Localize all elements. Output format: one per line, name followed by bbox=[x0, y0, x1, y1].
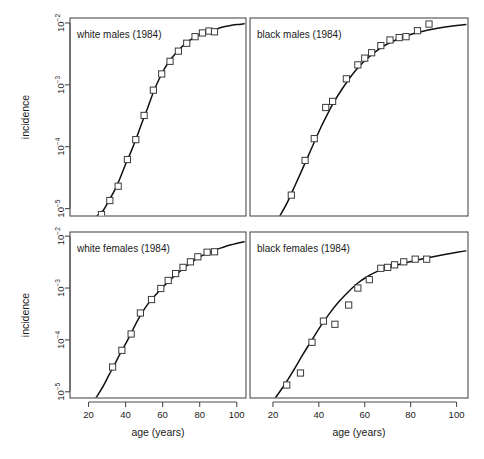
y-axis-title: incidence bbox=[19, 95, 31, 140]
data-point-marker bbox=[204, 249, 210, 255]
data-point-marker bbox=[414, 28, 420, 34]
data-point-marker bbox=[297, 370, 303, 376]
data-point-marker bbox=[133, 137, 139, 143]
y-tick-exponent: −4 bbox=[53, 331, 60, 339]
y-tick-exponent: −2 bbox=[53, 14, 60, 22]
panel-title-white-males: white males (1984) bbox=[76, 29, 161, 40]
data-point-marker bbox=[355, 62, 361, 68]
x-tick-label: 40 bbox=[314, 409, 325, 420]
data-point-marker bbox=[387, 37, 393, 43]
x-tick-label: 60 bbox=[157, 409, 168, 420]
data-point-marker bbox=[320, 318, 326, 324]
data-point-marker bbox=[332, 321, 338, 327]
data-point-marker bbox=[192, 34, 198, 40]
data-point-marker bbox=[173, 270, 179, 276]
data-point-marker bbox=[195, 254, 201, 260]
y-tick-exponent: −3 bbox=[53, 75, 60, 83]
y-axis-title: incidence bbox=[19, 293, 31, 338]
y-tick-exponent: −5 bbox=[53, 382, 60, 390]
data-point-marker bbox=[346, 302, 352, 308]
y-tick-base: 10 bbox=[55, 83, 66, 94]
data-point-marker bbox=[391, 262, 397, 268]
x-tick-label: 100 bbox=[449, 409, 465, 420]
data-point-marker bbox=[284, 382, 290, 388]
panel-frame-white-males bbox=[70, 18, 246, 216]
y-tick-base: 10 bbox=[55, 207, 66, 218]
panel-frame-white-females bbox=[70, 232, 246, 398]
data-point-marker bbox=[124, 156, 130, 162]
data-point-marker bbox=[396, 34, 402, 40]
x-tick-label: 20 bbox=[268, 409, 279, 420]
data-point-marker bbox=[148, 296, 154, 302]
data-point-marker bbox=[426, 21, 432, 27]
y-tick-base: 10 bbox=[55, 235, 66, 246]
y-tick-base: 10 bbox=[55, 145, 66, 156]
data-point-marker bbox=[211, 249, 217, 255]
data-point-marker bbox=[355, 285, 361, 291]
data-point-marker bbox=[424, 256, 430, 262]
data-point-marker bbox=[165, 277, 171, 283]
data-point-marker bbox=[343, 76, 349, 82]
x-tick-label: 80 bbox=[194, 409, 205, 420]
data-point-marker bbox=[128, 331, 134, 337]
y-tick-exponent: −4 bbox=[53, 137, 60, 145]
y-tick-exponent: −5 bbox=[53, 199, 60, 207]
data-point-marker bbox=[141, 112, 147, 118]
data-point-marker bbox=[199, 30, 205, 36]
data-point-marker bbox=[158, 285, 164, 291]
data-point-marker bbox=[167, 58, 173, 64]
data-point-marker bbox=[378, 265, 384, 271]
data-point-marker bbox=[107, 197, 113, 203]
data-point-marker bbox=[175, 48, 181, 54]
data-point-marker bbox=[412, 256, 418, 262]
data-point-marker bbox=[159, 71, 165, 77]
data-point-marker bbox=[211, 29, 217, 35]
data-point-marker bbox=[137, 310, 143, 316]
x-tick-label: 40 bbox=[120, 409, 131, 420]
panel-black-males: black males (1984) bbox=[250, 18, 468, 216]
y-tick-base: 10 bbox=[55, 338, 66, 349]
data-point-marker bbox=[288, 192, 294, 198]
data-point-marker bbox=[150, 87, 156, 93]
y-tick-base: 10 bbox=[55, 287, 66, 298]
x-axis-title: age (years) bbox=[131, 426, 184, 438]
x-tick-label: 20 bbox=[83, 409, 94, 420]
data-point-marker bbox=[378, 43, 384, 49]
data-point-marker bbox=[119, 347, 125, 353]
data-point-marker bbox=[187, 259, 193, 265]
x-tick-label: 60 bbox=[359, 409, 370, 420]
data-point-marker bbox=[401, 259, 407, 265]
data-point-marker bbox=[311, 136, 317, 142]
figure-canvas: 10−210−310−410−5incidencewhite males (19… bbox=[0, 0, 484, 459]
data-point-marker bbox=[362, 55, 368, 61]
y-tick-base: 10 bbox=[55, 21, 66, 32]
data-point-marker bbox=[385, 264, 391, 270]
panel-title-white-females: white females (1984) bbox=[76, 243, 170, 254]
panel-title-black-males: black males (1984) bbox=[257, 29, 341, 40]
y-tick-exponent: −3 bbox=[53, 279, 60, 287]
data-point-marker bbox=[366, 277, 372, 283]
incidence-vs-age-multipanel-chart: 10−210−310−410−5incidencewhite males (19… bbox=[0, 0, 484, 459]
data-point-marker bbox=[184, 40, 190, 46]
x-axis-title: age (years) bbox=[332, 426, 385, 438]
x-tick-label: 80 bbox=[405, 409, 416, 420]
data-point-marker bbox=[302, 157, 308, 163]
data-point-marker bbox=[180, 264, 186, 270]
data-point-marker bbox=[323, 104, 329, 110]
data-point-marker bbox=[110, 364, 116, 370]
data-point-marker bbox=[115, 183, 121, 189]
data-point-marker bbox=[309, 339, 315, 345]
x-tick-label: 100 bbox=[229, 409, 245, 420]
y-tick-exponent: −2 bbox=[53, 227, 60, 235]
panel-title-black-females: black females (1984) bbox=[257, 243, 350, 254]
y-tick-base: 10 bbox=[55, 390, 66, 401]
data-point-marker bbox=[403, 34, 409, 40]
panel-frame-black-males bbox=[250, 18, 468, 216]
data-point-marker bbox=[369, 50, 375, 56]
data-point-marker bbox=[330, 98, 336, 104]
